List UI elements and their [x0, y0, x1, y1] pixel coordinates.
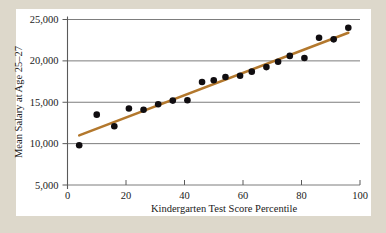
x-tick-labels: 020406080100 [65, 190, 368, 201]
data-point [199, 79, 206, 86]
x-tick-label: 20 [121, 190, 132, 201]
data-point [222, 74, 229, 81]
x-tick-label: 40 [179, 190, 190, 201]
x-axis-title: Kindergarten Test Score Percentile [151, 203, 297, 214]
data-points [76, 24, 352, 148]
y-tick-label: 10,000 [30, 138, 59, 149]
figure-container: 5,00010,00015,00020,00025,000 0204060801… [0, 0, 386, 233]
data-point [316, 34, 323, 41]
data-point [330, 36, 337, 43]
data-point [126, 105, 133, 112]
data-point [287, 53, 294, 60]
data-point [263, 64, 270, 71]
y-tick-label: 5,000 [35, 180, 59, 191]
data-point [184, 97, 191, 104]
data-point [93, 111, 100, 118]
data-point [345, 24, 352, 31]
x-tick-label: 0 [65, 190, 70, 201]
scatter-plot: 5,00010,00015,00020,00025,000 0204060801… [0, 0, 386, 233]
x-tick-label: 100 [352, 190, 368, 201]
data-point [170, 97, 177, 104]
y-tick-labels: 5,00010,00015,00020,00025,000 [30, 14, 59, 191]
data-point [237, 72, 244, 79]
data-point [210, 77, 217, 84]
data-point [275, 58, 282, 65]
y-tick-label: 20,000 [30, 55, 59, 66]
data-point [301, 55, 308, 62]
data-point [248, 68, 255, 75]
data-point [76, 142, 83, 149]
data-point [111, 123, 118, 130]
x-tick-label: 80 [296, 190, 307, 201]
regression-line [79, 33, 348, 136]
y-axis-title: Mean Salary at Age 25–27 [13, 46, 24, 158]
fit-line [79, 33, 348, 136]
y-tick-label: 25,000 [30, 14, 59, 25]
data-point [140, 106, 147, 113]
y-tick-label: 15,000 [30, 97, 59, 108]
x-tick-label: 60 [238, 190, 249, 201]
data-point [155, 101, 162, 108]
